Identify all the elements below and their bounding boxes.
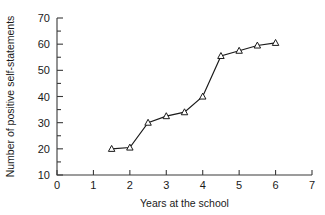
x-tick-label: 0 xyxy=(54,179,60,191)
x-tick-label: 4 xyxy=(200,179,206,191)
axis-lines xyxy=(57,18,312,175)
x-tick-label: 2 xyxy=(127,179,133,191)
data-point-markers xyxy=(108,39,278,151)
y-axis-tick-labels: 10203040506070 xyxy=(38,12,50,181)
chart-container: 10203040506070 01234567 Years at the sch… xyxy=(0,0,325,215)
y-tick-label: 10 xyxy=(38,169,50,181)
x-tick-label: 5 xyxy=(236,179,242,191)
data-point-marker xyxy=(199,93,205,99)
x-axis-ticks xyxy=(57,170,312,175)
x-axis-tick-labels: 01234567 xyxy=(54,179,315,191)
x-tick-label: 6 xyxy=(273,179,279,191)
y-tick-label: 60 xyxy=(38,38,50,50)
x-tick-label: 3 xyxy=(163,179,169,191)
data-point-marker xyxy=(272,39,278,45)
y-axis-ticks xyxy=(57,18,63,175)
y-axis-title: Number of positive self-statements xyxy=(4,16,16,178)
line-chart: 10203040506070 01234567 Years at the sch… xyxy=(0,0,325,215)
x-axis-title: Years at the school xyxy=(140,197,229,209)
y-tick-label: 20 xyxy=(38,143,50,155)
y-tick-label: 50 xyxy=(38,64,50,76)
x-tick-label: 1 xyxy=(90,179,96,191)
x-tick-label: 7 xyxy=(309,179,315,191)
y-tick-label: 30 xyxy=(38,117,50,129)
y-tick-label: 70 xyxy=(38,12,50,24)
data-series-line xyxy=(112,43,276,149)
y-tick-label: 40 xyxy=(38,91,50,103)
